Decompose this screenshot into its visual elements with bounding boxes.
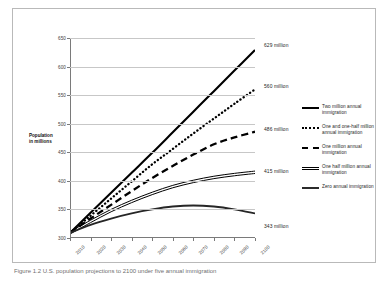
legend-label: Two million annual immigration [322,104,382,116]
series-lines [70,38,255,238]
series-line [70,173,255,234]
legend-item[interactable]: One half million annual immigration [302,164,382,176]
series-line [70,50,255,233]
gridline [70,95,255,96]
x-tick-label: 2080 [219,244,230,255]
y-tick-mark [67,38,70,39]
legend-swatch-icon [302,164,319,172]
y-axis-title: Population in millions [29,133,69,145]
x-tick-label: 2020 [95,244,106,255]
legend-swatch-icon [302,184,319,192]
chart-legend: Two million annual immigrationOne and on… [302,104,382,199]
legend-swatch-icon [302,124,319,132]
y-tick-mark [67,67,70,68]
y-tick-label: 500 [58,121,66,126]
legend-swatch-icon [302,144,319,152]
x-tick-mark [70,238,71,241]
plot-area: 300350400450500550600650 201020202030204… [70,38,255,238]
x-tick-label: 2100 [260,244,271,255]
x-tick-label: 2050 [157,244,168,255]
legend-item[interactable]: One and one-half million annual immigrat… [302,124,382,136]
series-line [70,89,255,232]
y-axis-line [70,38,71,238]
figure-caption: Figure 1.2 U.S. population projections t… [14,268,384,274]
x-tick-mark [193,238,194,241]
x-tick-mark [234,238,235,241]
y-tick-mark [67,152,70,153]
gridline [70,38,255,39]
gridline [70,209,255,210]
x-tick-mark [132,238,133,241]
gridline [70,181,255,182]
legend-label: One million annual immigration [322,144,382,156]
x-tick-mark [91,238,92,241]
y-tick-label: 650 [58,36,66,41]
x-axis-line [70,237,255,238]
gridline [70,124,255,125]
x-tick-mark [255,238,256,241]
y-tick-label: 600 [58,64,66,69]
series-end-label: 629 million [264,43,288,48]
x-tick-mark [111,238,112,241]
series-end-label: 560 million [264,84,288,89]
series-end-label: 415 million [264,169,288,174]
y-tick-mark [67,124,70,125]
gridline [70,152,255,153]
series-end-label: 486 million [264,127,288,132]
series-end-label: 343 million [264,224,288,229]
legend-label: One half million annual immigration [322,164,382,176]
x-tick-mark [214,238,215,241]
legend-label: Zero annual immigration [322,184,374,190]
y-axis-title-line2: in millions [29,139,69,145]
legend-item[interactable]: Two million annual immigration [302,104,382,116]
y-tick-mark [67,95,70,96]
y-tick-label: 350 [58,207,66,212]
y-tick-label: 400 [58,178,66,183]
y-tick-label: 550 [58,93,66,98]
x-tick-mark [173,238,174,241]
x-tick-label: 2030 [116,244,127,255]
figure-frame: Population in millions 30035040045050055… [12,8,376,263]
x-tick-mark [152,238,153,241]
y-tick-label: 450 [58,150,66,155]
legend-item[interactable]: Zero annual immigration [302,184,382,192]
y-tick-label: 300 [58,236,66,241]
y-tick-mark [67,181,70,182]
legend-label: One and one-half million annual immigrat… [322,124,382,136]
x-tick-label: 2070 [198,244,209,255]
legend-item[interactable]: One million annual immigration [302,144,382,156]
gridline [70,67,255,68]
legend-swatch-icon [302,104,319,112]
x-tick-label: 2040 [136,244,147,255]
x-tick-label: 2010 [75,244,86,255]
x-tick-label: 2090 [239,244,250,255]
series-line [70,132,255,233]
x-tick-label: 2060 [177,244,188,255]
y-tick-mark [67,209,70,210]
